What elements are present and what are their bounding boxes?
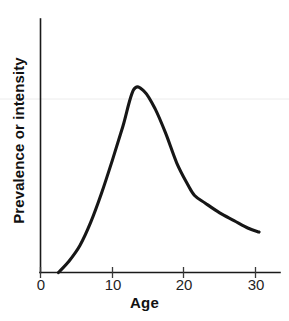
x-tick-label-0: 0: [21, 277, 61, 292]
x-axis-title: Age: [0, 294, 289, 311]
x-tick-label-10: 10: [93, 277, 133, 292]
x-tick-label-20: 20: [164, 277, 204, 292]
prevalence-curve: [58, 87, 259, 273]
chart-figure: 0 10 20 30 Age Prevalence or intensity: [0, 0, 289, 321]
x-tick-label-30: 30: [236, 277, 276, 292]
chart-plot-area: [0, 0, 289, 321]
